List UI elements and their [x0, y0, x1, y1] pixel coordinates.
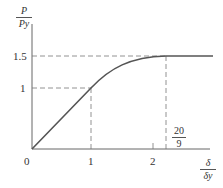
- x-tick-0: 0: [24, 156, 30, 167]
- annotation-den: 9: [177, 138, 182, 149]
- y-axis-label: P Py: [16, 6, 32, 29]
- annotation-num: 20: [174, 125, 184, 136]
- x-axis-label: δ δy: [200, 158, 216, 181]
- annotation-20-9: 20 9: [172, 126, 186, 149]
- chart-plot: [0, 0, 223, 188]
- x-label-num: δ: [206, 157, 211, 168]
- y-tick-1: 1: [20, 83, 26, 94]
- y-tick-1.5: 1.5: [13, 51, 27, 62]
- x-tick-2: 2: [150, 156, 156, 167]
- y-label-den: Py: [19, 18, 30, 29]
- x-label-den: δy: [203, 170, 212, 181]
- y-label-num: P: [21, 5, 27, 16]
- x-tick-1: 1: [88, 156, 94, 167]
